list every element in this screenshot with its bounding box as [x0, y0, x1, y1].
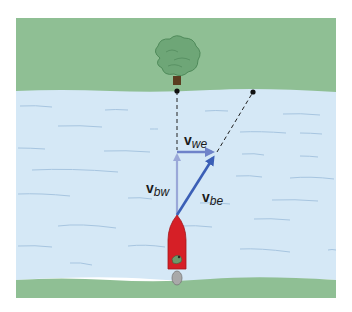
label-v-bw: vbw	[146, 180, 169, 196]
passenger-icon	[172, 255, 182, 263]
label-v-we: vwe	[184, 132, 207, 148]
landing-point-dot	[250, 89, 255, 94]
river-crossing-diagram	[0, 0, 352, 312]
motor-icon	[172, 271, 182, 285]
label-v-be: vbe	[202, 189, 223, 205]
target-point-dot	[174, 88, 179, 93]
